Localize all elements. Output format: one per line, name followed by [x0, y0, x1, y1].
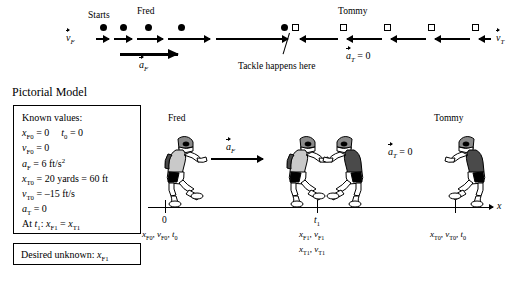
- pictorial-aT-label: aT = 0: [388, 147, 412, 160]
- player-fred-start: [156, 130, 212, 208]
- known-values-row-5: vT0 = –15 ft/s: [22, 189, 75, 202]
- desired-unknown-text: Desired unknown: xF1: [21, 250, 109, 263]
- desired-unknown-sub: F1: [102, 255, 109, 262]
- axis-tick-0: [165, 200, 166, 213]
- pictorial-label-fred: Fred: [168, 114, 185, 124]
- position-axis: [148, 207, 493, 208]
- known-values-row-4: xT0 = 20 yards = 60 ft: [22, 174, 108, 187]
- motion-vF-arrow-4: [216, 38, 288, 40]
- motion-dot-fred-3: [178, 24, 185, 31]
- motion-vT-arrow-2: [391, 38, 426, 40]
- kv-eq: =: [58, 218, 69, 229]
- kv-a-t-val: = 0: [31, 203, 47, 214]
- player-tommy-start: [440, 130, 496, 208]
- kv-a-f-val: = 6 ft/s: [31, 158, 62, 169]
- pictorial-aF-sub: F: [231, 147, 235, 154]
- axis-tick2-vars: xT0, vT0, t0: [430, 230, 466, 241]
- motion-dot-fred-0: [100, 24, 107, 31]
- motion-aF-symbol: a: [139, 59, 144, 70]
- motion-aT-symbol: a: [346, 50, 351, 61]
- tick1-v-f1-sub: F1: [318, 235, 324, 241]
- known-values-row-3: aF = 6 ft/s2: [22, 158, 65, 172]
- kv-v-t0-val: = –15 ft/s: [34, 188, 75, 199]
- section-title: Pictorial Model: [12, 86, 87, 98]
- axis-tick0-vars: xF0, vF0, t0: [142, 230, 177, 241]
- motion-square-tommy-1: [340, 24, 347, 31]
- motion-square-tommy-2: [384, 24, 391, 31]
- axis-tick1-vars-t: xT1, vT1: [299, 245, 325, 256]
- kv-x-t0-sub: T0: [26, 179, 34, 186]
- motion-label-tommy: Tommy: [338, 7, 367, 17]
- motion-square-tommy-0: [292, 24, 299, 31]
- known-values-row-2: vF0 = 0: [22, 143, 49, 156]
- kv-at-prefix: At: [22, 218, 35, 229]
- motion-vT-sub: T: [500, 38, 504, 45]
- pictorial-aF-label: aF: [226, 142, 235, 155]
- motion-vT-arrow-4: [479, 38, 491, 40]
- motion-vT-symbol: v: [496, 32, 500, 43]
- motion-label-fred: Fred: [137, 7, 154, 17]
- pictorial-aF-symbol: a: [226, 141, 231, 152]
- motion-vF-arrow-0: [96, 38, 109, 40]
- axis-tick-1: [317, 200, 318, 213]
- tick2-x-sub: T0: [434, 235, 441, 241]
- tackle-caption: Tackle happens here: [238, 62, 315, 72]
- tick2-t-sub: 0: [463, 235, 466, 241]
- motion-square-tommy-4: [472, 24, 479, 31]
- known-values-row-6: aT = 0: [22, 204, 47, 217]
- motion-vT-label: vT: [496, 33, 504, 46]
- axis-tick1-vars-f: xF1, vF1: [299, 230, 324, 241]
- motion-dot-fred-1: [120, 24, 127, 31]
- kv-x-t1-sub: T1: [73, 224, 81, 231]
- pictorial-aT-symbol: a: [388, 146, 393, 157]
- pictorial-aT-value: = 0: [397, 146, 413, 157]
- motion-vF-sub: F: [70, 38, 74, 45]
- axis-tick1-top: t1: [314, 216, 320, 227]
- motion-aF-label: aF: [139, 60, 148, 73]
- motion-vT-arrow-1: [347, 38, 382, 40]
- motion-square-tommy-3: [428, 24, 435, 31]
- kv-x-t0-val: = 20 yards = 60 ft: [34, 173, 108, 184]
- known-values-row-1: xF0 = 0 t0 = 0: [22, 128, 83, 141]
- motion-label-starts: Starts: [88, 11, 110, 21]
- kv-v-f0-val: = 0: [34, 142, 50, 153]
- kv-v-t0-sub: T0: [26, 194, 34, 201]
- motion-vT-arrow-0: [300, 38, 338, 40]
- tick1-v-t1-sub: T1: [318, 250, 325, 256]
- kv-v-f0-sub: F0: [26, 148, 33, 155]
- motion-aF-sub: F: [144, 65, 148, 72]
- kv-x-f0-sub: F0: [26, 133, 33, 140]
- desired-unknown-prefix: Desired unknown:: [21, 249, 97, 260]
- motion-vF-arrow-2: [137, 38, 163, 40]
- motion-aF-arrow: [120, 53, 178, 56]
- axis-tick-2: [455, 200, 456, 213]
- kv-a-f-exp: 2: [62, 157, 65, 164]
- tick0-t-sub: 0: [174, 235, 177, 241]
- motion-vF-arrow-1: [114, 38, 132, 40]
- player-tommy-tackle: [318, 130, 374, 208]
- motion-dot-fred-2: [145, 24, 152, 31]
- figure-root: Starts Fred Tommy vF aF: [0, 0, 524, 285]
- known-values-row-7: At t1: xF1 = xT1: [22, 219, 80, 232]
- pictorial-label-tommy: Tommy: [434, 114, 463, 124]
- kv-t0-val: = 0: [67, 127, 83, 138]
- motion-vF-arrow-3: [168, 38, 210, 40]
- axis-tick0-top: 0: [162, 216, 167, 226]
- motion-aT-value: = 0: [355, 50, 371, 61]
- tick1-t-sub: 1: [317, 220, 320, 227]
- pictorial-aF-arrow: [211, 158, 263, 160]
- motion-vF-symbol: v: [66, 32, 70, 43]
- known-values-heading: Known values:: [22, 113, 82, 123]
- kv-x-f1-sub: F1: [50, 224, 57, 231]
- motion-aT-label: aT = 0: [346, 51, 370, 64]
- axis-label-x: x: [497, 201, 501, 211]
- kv-x-f0-val: = 0: [34, 127, 50, 138]
- motion-vT-arrow-3: [435, 38, 470, 40]
- motion-vF-label: vF: [66, 33, 75, 46]
- motion-dot-fred-4: [281, 24, 288, 31]
- tick1-x-t1-sub: T1: [303, 250, 310, 256]
